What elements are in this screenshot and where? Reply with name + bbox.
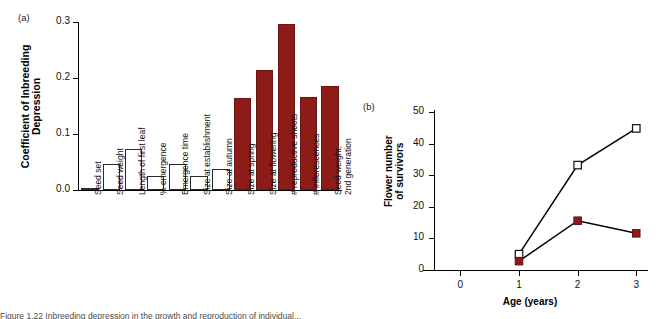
panel-b-series-layer xyxy=(360,0,658,319)
series-marker xyxy=(574,161,582,169)
panel-b-line-chart: (b) Flower number of survivors Age (year… xyxy=(360,0,658,319)
bar-category-label: % emergence xyxy=(159,143,168,195)
panel-a-y-tick-label: 0.3 xyxy=(24,15,70,26)
bar-category-label: Size at establishment xyxy=(203,114,212,195)
bar-category-label: Size at spring xyxy=(247,144,256,196)
bar-label-line: 2nd generation xyxy=(344,138,354,195)
panel-a-y-tick xyxy=(73,78,78,79)
bar-category-label: Seed weight xyxy=(116,148,125,195)
panel-a-y-tick-label: 0.2 xyxy=(24,71,70,82)
series-marker xyxy=(515,250,523,258)
figure-caption: Figure 1.22 Inbreeding depression in the… xyxy=(0,311,658,319)
bar-category-label: Emergence time xyxy=(181,133,190,195)
series-marker xyxy=(633,230,641,238)
bar-category-label: Seed set xyxy=(94,161,103,195)
series-line xyxy=(519,128,636,254)
panel-a-y-axis-title: Coefficient of Inbreeding Depression xyxy=(20,17,41,197)
series-marker xyxy=(515,257,523,265)
bar-category-label: # inflorescences xyxy=(312,134,321,195)
series-marker xyxy=(633,125,641,133)
bar-category-label: Size at flowering xyxy=(269,133,278,195)
figure-root: (a) Coefficient of Inbreeding Depression… xyxy=(0,0,658,319)
panel-a-y-tick xyxy=(73,22,78,23)
panel-a-bar-chart: (a) Coefficient of Inbreeding Depression… xyxy=(0,0,360,319)
bar-category-label: Size at autumn xyxy=(225,138,234,195)
panel-a-y-tick-label: 0.0 xyxy=(24,183,70,194)
bar-category-label: Length of first leaf xyxy=(138,127,147,195)
panel-a-y-tick-label: 0.1 xyxy=(24,127,70,138)
bar-category-label: # reproductive shoots xyxy=(290,114,299,195)
bar-category-label: Seed weight,2nd generation xyxy=(334,138,353,195)
series-marker xyxy=(574,217,582,225)
panel-a-y-tick xyxy=(73,134,78,135)
panel-a-y-tick xyxy=(73,190,78,191)
